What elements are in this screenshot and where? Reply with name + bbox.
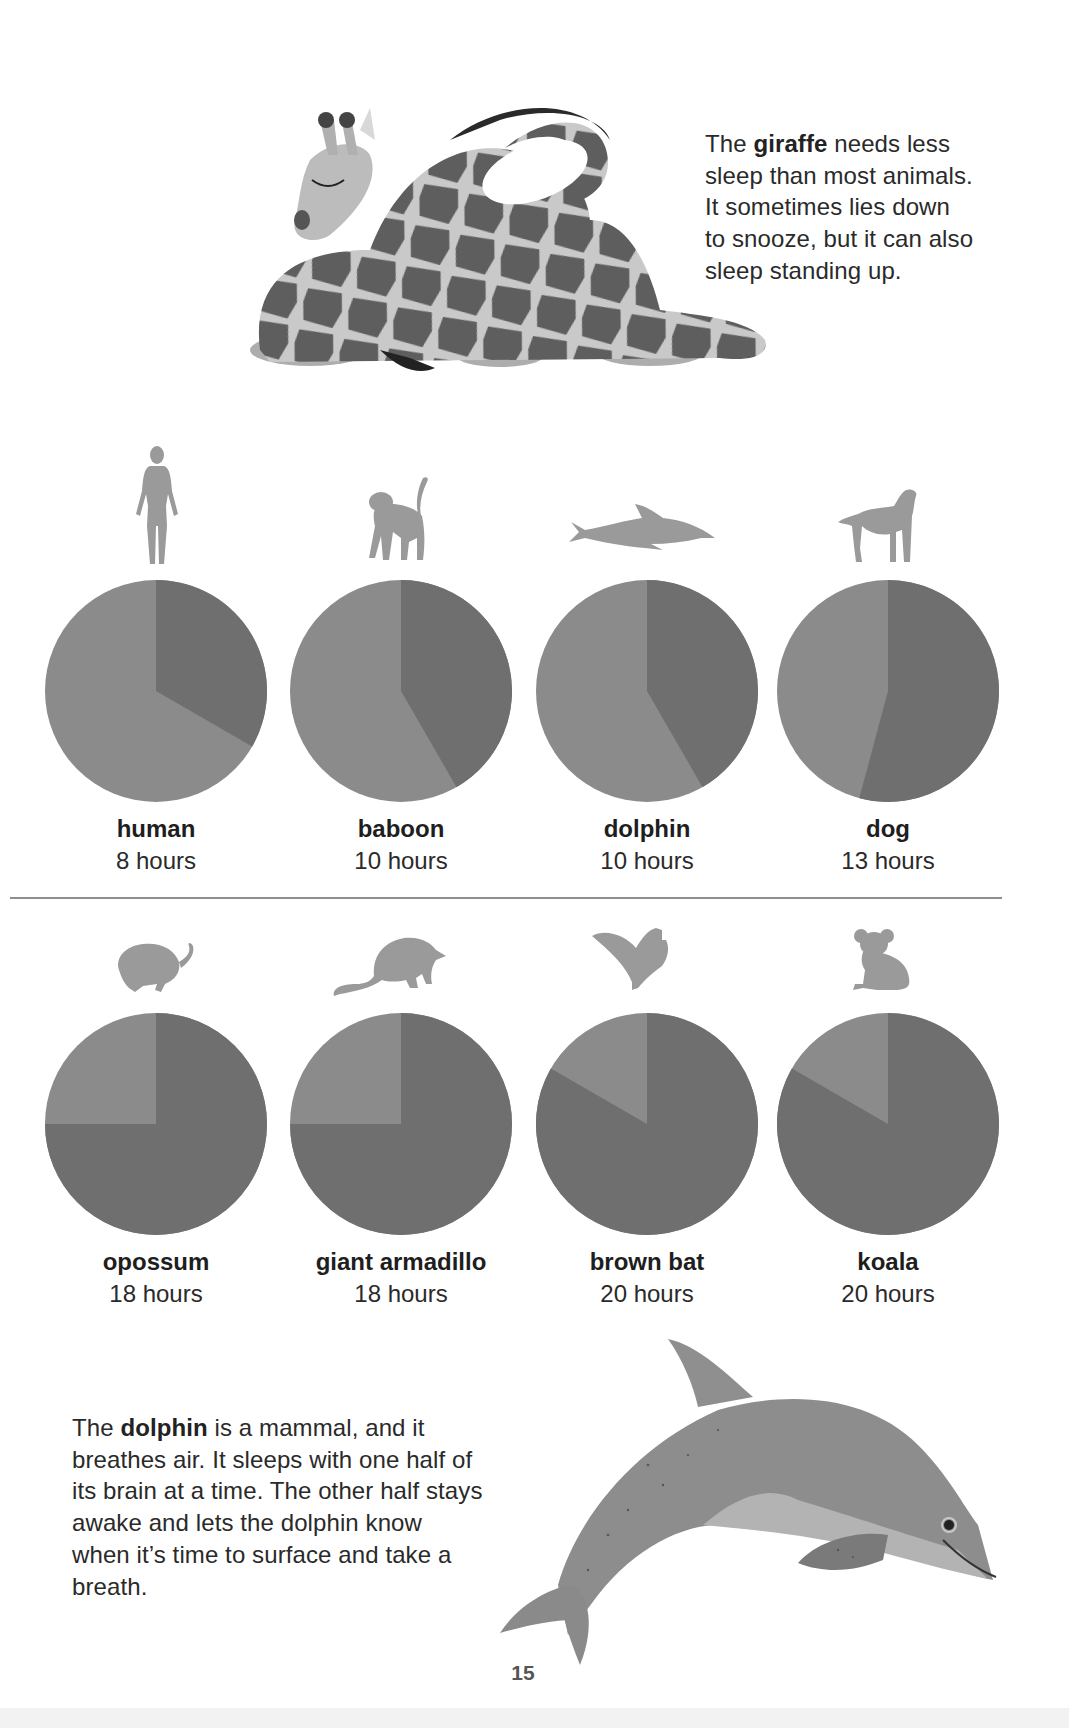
pie-chart-opossum xyxy=(45,1013,267,1235)
label-giant-armadillo: giant armadillo 18 hours xyxy=(281,1246,521,1310)
dolphin-caption-line-5: when it’s time to surface and take a xyxy=(72,1539,532,1571)
dolphin-caption: The dolphin is a mammal, and it breathes… xyxy=(72,1412,532,1602)
label-koala: koala 20 hours xyxy=(768,1246,1008,1310)
giraffe-caption: The giraffe needs less sleep than most a… xyxy=(705,128,1045,287)
giraffe-caption-line-2: sleep than most animals. xyxy=(705,160,1045,192)
animal-name: baboon xyxy=(281,813,521,845)
pie-chart-human xyxy=(45,580,267,802)
label-opossum: opossum 18 hours xyxy=(36,1246,276,1310)
giraffe-caption-line-1: The giraffe needs less xyxy=(705,128,1045,160)
dolphin-caption-line-1: The dolphin is a mammal, and it xyxy=(72,1412,532,1444)
sleep-hours: 10 hours xyxy=(281,845,521,877)
dolphin-illustration xyxy=(488,1335,998,1665)
sleep-hours: 18 hours xyxy=(36,1278,276,1310)
animal-name: opossum xyxy=(36,1246,276,1278)
pie-chart-baboon xyxy=(290,580,512,802)
opossum-icon xyxy=(113,940,197,994)
animal-name: koala xyxy=(768,1246,1008,1278)
dolphin-caption-line-2: breathes air. It sleeps with one half of xyxy=(72,1444,532,1476)
animal-name: dog xyxy=(768,813,1008,845)
sleep-hours: 18 hours xyxy=(281,1278,521,1310)
pie-chart-dog xyxy=(777,580,999,802)
label-brown-bat: brown bat 20 hours xyxy=(527,1246,767,1310)
page-number: 15 xyxy=(505,1661,541,1685)
dog-icon xyxy=(838,488,918,564)
dolphin-bold: dolphin xyxy=(120,1414,207,1441)
sleep-hours: 8 hours xyxy=(36,845,276,877)
sleep-hours: 20 hours xyxy=(527,1278,767,1310)
animal-name: brown bat xyxy=(527,1246,767,1278)
animal-name: dolphin xyxy=(527,813,767,845)
giraffe-caption-line-4: to snooze, but it can also xyxy=(705,223,1045,255)
animal-name: giant armadillo xyxy=(281,1246,521,1278)
pie-chart-koala xyxy=(777,1013,999,1235)
sleep-hours: 10 hours xyxy=(527,845,767,877)
animal-name: human xyxy=(36,813,276,845)
label-human: human 8 hours xyxy=(36,813,276,877)
koala-icon xyxy=(853,928,913,992)
giraffe-bold: giraffe xyxy=(753,130,827,157)
pie-chart-dolphin xyxy=(536,580,758,802)
dolphin-caption-line-6: breath. xyxy=(72,1571,532,1603)
dolphin-icon xyxy=(567,502,717,552)
label-dolphin: dolphin 10 hours xyxy=(527,813,767,877)
sleep-hours: 13 hours xyxy=(768,845,1008,877)
sleep-hours: 20 hours xyxy=(768,1278,1008,1310)
armadillo-icon xyxy=(332,936,448,1000)
page-edge-shadow xyxy=(0,1708,1069,1728)
bat-icon xyxy=(592,926,672,992)
human-icon xyxy=(134,446,180,568)
label-baboon: baboon 10 hours xyxy=(281,813,521,877)
pie-chart-giant-armadillo xyxy=(290,1013,512,1235)
giraffe-caption-line-3: It sometimes lies down xyxy=(705,191,1045,223)
giraffe-caption-line-5: sleep standing up. xyxy=(705,255,1045,287)
label-dog: dog 13 hours xyxy=(768,813,1008,877)
pie-chart-brown-bat xyxy=(536,1013,758,1235)
dolphin-caption-line-3: its brain at a time. The other half stay… xyxy=(72,1475,532,1507)
giraffe-illustration xyxy=(250,100,775,420)
dolphin-caption-line-4: awake and lets the dolphin know xyxy=(72,1507,532,1539)
row-divider xyxy=(10,897,1002,899)
baboon-icon xyxy=(367,476,435,562)
